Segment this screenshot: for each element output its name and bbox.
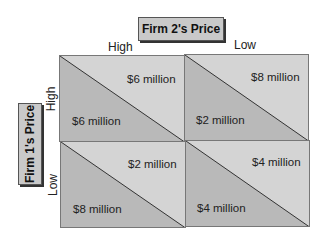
diagonal-split-icon (185, 55, 309, 141)
firm1-payoff: $2 million (196, 114, 245, 126)
diagonal-split-icon (186, 141, 310, 227)
payoff-cell-low-high: $2 million $8 million (60, 141, 186, 228)
firm1-payoff: $4 million (197, 202, 246, 214)
payoff-cell-high-low: $8 million $2 million (184, 54, 309, 141)
firm1-price-title: Firm 1's Price (18, 103, 42, 185)
col-label-low: Low (234, 38, 256, 52)
firm2-price-title: Firm 2's Price (138, 17, 224, 41)
firm1-payoff: $8 million (73, 203, 122, 215)
diagonal-split-icon (60, 56, 185, 142)
firm2-payoff: $8 million (251, 71, 300, 83)
payoff-cell-high-high: $6 million $6 million (59, 55, 185, 142)
firm2-payoff: $2 million (128, 158, 177, 170)
col-label-high: High (108, 40, 133, 54)
firm1-title-text: Firm 1's Price (23, 105, 37, 183)
diagonal-split-icon (61, 142, 186, 228)
firm1-payoff: $6 million (72, 115, 121, 127)
payoff-cell-low-low: $4 million $4 million (185, 140, 310, 227)
row-label-high: High (44, 87, 58, 112)
firm2-title-text: Firm 2's Price (142, 22, 220, 36)
firm2-payoff: $6 million (127, 73, 176, 85)
row-label-low: Low (46, 174, 60, 196)
firm2-payoff: $4 million (252, 156, 301, 168)
